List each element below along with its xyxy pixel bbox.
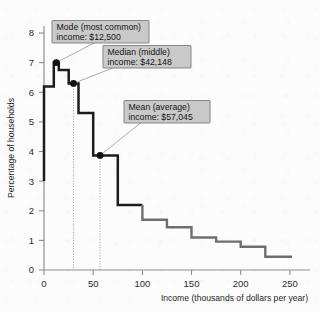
mean-leader-line: [100, 121, 143, 155]
y-tick-label: 8: [29, 27, 34, 38]
x-axis-tick-labels: 0 50 100 150 200 250: [41, 278, 297, 289]
median-callout-line1: Median (middle): [108, 47, 170, 57]
x-axis-ticks: [44, 270, 290, 275]
y-tick-label: 7: [29, 57, 34, 68]
x-tick-label: 50: [88, 278, 99, 289]
y-axis-tick-labels: 0 1 2 3 4 5 6 7 8: [29, 27, 34, 275]
median-marker-dot: [70, 80, 77, 87]
median-callout: Median (middle) income: $42,148: [103, 46, 191, 69]
y-tick-label: 3: [29, 176, 34, 187]
mode-callout-line1: Mode (most common): [57, 22, 142, 32]
y-tick-label: 1: [29, 235, 34, 246]
y-axis-title: Percentage of households: [6, 98, 16, 198]
y-tick-label: 0: [29, 264, 34, 275]
mode-marker-dot: [53, 59, 60, 66]
mode-callout: Mode (most common) income: $12,500: [52, 21, 149, 44]
step-line-tail: [142, 205, 292, 257]
mode-leader-line: [56, 41, 98, 63]
median-callout-line2: income: $42,148: [108, 57, 172, 67]
mode-callout-line2: income: $12,500: [57, 32, 121, 42]
x-tick-label: 200: [233, 278, 249, 289]
y-tick-label: 5: [29, 116, 34, 127]
x-axis-title: Income (thousands of dollars per year): [161, 293, 308, 303]
x-tick-label: 250: [282, 278, 298, 289]
y-tick-label: 4: [29, 146, 34, 157]
y-tick-label: 6: [29, 87, 34, 98]
mean-marker-dot: [97, 152, 104, 159]
y-tick-label: 2: [29, 205, 34, 216]
mean-callout-line1: Mean (average): [129, 102, 190, 112]
income-distribution-figure: 0 1 2 3 4 5 6 7 8 0 50 100 150 200 250: [0, 0, 320, 311]
mean-callout: Mean (average) income: $57,045: [124, 101, 210, 124]
mean-callout-line2: income: $57,045: [129, 112, 193, 122]
chart-canvas: 0 1 2 3 4 5 6 7 8 0 50 100 150 200 250: [0, 0, 320, 311]
x-tick-label: 150: [184, 278, 200, 289]
x-tick-label: 0: [41, 278, 46, 289]
x-tick-label: 100: [134, 278, 150, 289]
